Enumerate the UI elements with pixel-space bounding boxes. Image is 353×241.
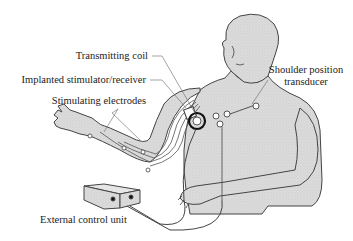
label-implanted-stimulator: Implanted stimulator/receiver bbox=[0, 74, 146, 86]
label-shoulder-transducer-line1: Shoulder position bbox=[258, 64, 353, 76]
label-stimulating-electrodes: Stimulating electrodes bbox=[20, 95, 146, 107]
label-transmitting-coil: Transmitting coil bbox=[20, 50, 148, 62]
label-external-control-unit: External control unit bbox=[40, 214, 127, 226]
label-shoulder-transducer-line2: transducer bbox=[258, 76, 353, 88]
neuroprosthesis-illustration bbox=[0, 0, 353, 241]
external-control-unit bbox=[84, 184, 140, 209]
